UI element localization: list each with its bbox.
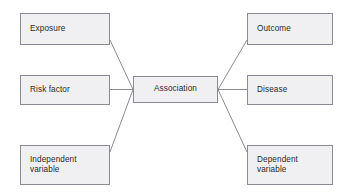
connector-exposure-association	[110, 40, 133, 90]
node-exposure[interactable]: Exposure	[20, 13, 110, 45]
node-association[interactable]: Association	[133, 76, 218, 103]
node-disease[interactable]: Disease	[247, 75, 333, 105]
node-dependent-variable-label: Dependent variable	[248, 155, 332, 176]
node-outcome-label: Outcome	[248, 24, 332, 35]
node-dependent-variable[interactable]: Dependent variable	[247, 145, 333, 185]
concept-map-diagram: Exposure Risk factor Independent variabl…	[0, 0, 351, 196]
node-exposure-label: Exposure	[21, 24, 109, 35]
node-risk-factor[interactable]: Risk factor	[20, 75, 110, 105]
node-risk-factor-label: Risk factor	[21, 85, 109, 96]
connector-independent-variable-association	[110, 90, 133, 153]
node-independent-variable-label: Independent variable	[21, 155, 109, 176]
node-disease-label: Disease	[248, 85, 332, 96]
connector-association-dependent-variable	[218, 90, 247, 153]
node-outcome[interactable]: Outcome	[247, 13, 333, 45]
node-independent-variable[interactable]: Independent variable	[20, 145, 110, 185]
node-association-label: Association	[134, 84, 217, 95]
connector-association-outcome	[218, 40, 247, 90]
